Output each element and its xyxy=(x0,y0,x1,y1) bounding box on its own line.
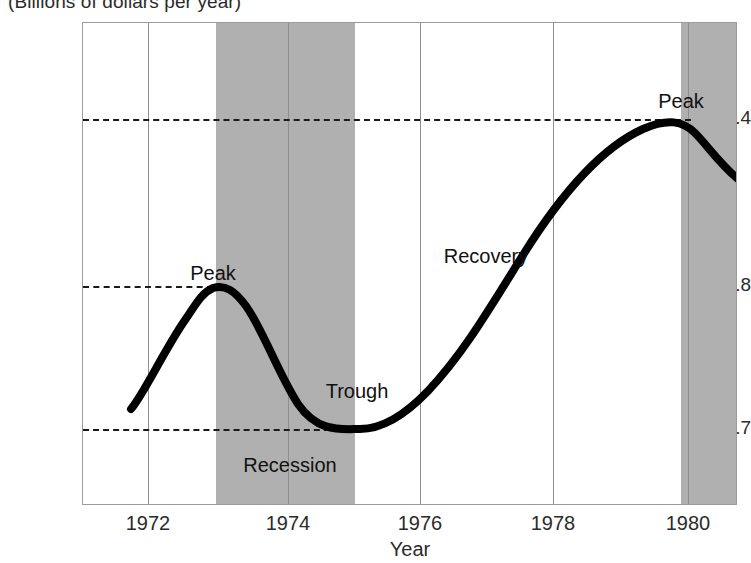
x-axis-tick-label-1972: 1972 xyxy=(126,512,171,535)
x-axis-tick-label-1978: 1978 xyxy=(531,512,576,535)
annotation-recession: Recession xyxy=(243,454,336,477)
leader-line-2642-7 xyxy=(83,429,360,431)
recession-band-1973-1975 xyxy=(216,23,355,504)
gridline-1974 xyxy=(288,23,289,504)
series-curve-real-gnp xyxy=(83,23,737,505)
chart-screenshot: (Billions of dollars per year) 3233.4 27… xyxy=(0,0,751,563)
plot-area: Peak Trough Recession Recovery Peak xyxy=(82,22,737,505)
gridline-1976 xyxy=(420,23,421,504)
annotation-trough: Trough xyxy=(326,380,389,403)
gridline-1972 xyxy=(148,23,149,504)
leader-line-3233-4 xyxy=(83,119,691,121)
x-axis-tick-label-1976: 1976 xyxy=(398,512,443,535)
annotation-peak-1980: Peak xyxy=(658,90,704,113)
x-axis-tick-label-1980: 1980 xyxy=(666,512,711,535)
chart-title: (Billions of dollars per year) xyxy=(8,0,241,13)
annotation-recovery: Recovery xyxy=(444,245,528,268)
leader-line-2762-8 xyxy=(83,286,213,288)
annotation-peak-1973: Peak xyxy=(190,262,236,285)
x-axis-tick-label-1974: 1974 xyxy=(266,512,311,535)
gridline-1978 xyxy=(553,23,554,504)
x-axis-title: Year xyxy=(390,538,430,561)
